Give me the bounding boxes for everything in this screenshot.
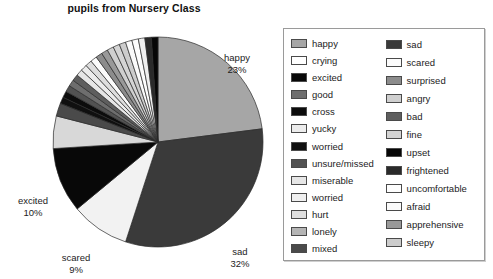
pie-label-scared: scared 9%: [48, 252, 104, 275]
legend-item-fine[interactable]: fine: [386, 126, 480, 142]
legend-swatch-icon: [291, 56, 307, 65]
legend-swatch-icon: [386, 166, 402, 175]
legend-item-excited[interactable]: excited: [291, 70, 380, 85]
pie-chart: happy 23% sad 32% scared 9% excited 10%: [0, 18, 278, 279]
legend-item-label: scared: [407, 57, 436, 68]
legend-item-label: mixed: [312, 243, 337, 254]
legend-item-yucky[interactable]: yucky: [291, 121, 380, 136]
legend-swatch-icon: [291, 176, 307, 185]
legend-swatch-icon: [386, 220, 402, 229]
legend-item-label: happy: [312, 38, 338, 49]
legend-item-worried[interactable]: worried: [291, 190, 380, 205]
pie-label-excited-percent: 10%: [2, 207, 64, 219]
legend-item-upset[interactable]: upset: [386, 144, 480, 160]
pie-label-excited-name: excited: [2, 195, 64, 207]
legend-item-label: worried: [312, 192, 343, 203]
legend-swatch-icon: [386, 130, 402, 139]
legend: happycryingexcitedgoodcrossyuckyworriedu…: [283, 28, 485, 261]
legend-swatch-icon: [386, 40, 402, 49]
legend-item-label: uncomfortable: [407, 183, 467, 194]
pie-label-happy-name: happy: [206, 52, 268, 64]
legend-item-label: sad: [407, 39, 422, 50]
legend-item-crying[interactable]: crying: [291, 53, 380, 68]
legend-item-label: lonely: [312, 226, 337, 237]
legend-columns: happycryingexcitedgoodcrossyuckyworriedu…: [291, 36, 480, 256]
legend-swatch-icon: [291, 244, 307, 253]
pie-label-excited: excited 10%: [2, 195, 64, 218]
legend-swatch-icon: [386, 184, 402, 193]
legend-item-label: miserable: [312, 175, 353, 186]
legend-item-afraid[interactable]: afraid: [386, 198, 480, 214]
pie-label-sad: sad 32%: [212, 246, 268, 269]
legend-item-label: surprised: [407, 75, 446, 86]
legend-swatch-icon: [386, 238, 402, 247]
pie-label-sad-percent: 32%: [212, 258, 268, 270]
legend-swatch-icon: [291, 227, 307, 236]
legend-item-label: yucky: [312, 123, 336, 134]
legend-item-mixed[interactable]: mixed: [291, 241, 380, 256]
legend-swatch-icon: [386, 112, 402, 121]
legend-item-label: fine: [407, 129, 422, 140]
legend-item-label: angry: [407, 93, 431, 104]
legend-item-cross[interactable]: cross: [291, 104, 380, 119]
legend-swatch-icon: [386, 202, 402, 211]
legend-column-right: sadscaredsurprisedangrybadfineupsetfrigh…: [386, 36, 480, 256]
pie-label-scared-name: scared: [48, 252, 104, 264]
pie-label-happy-percent: 23%: [206, 64, 268, 76]
legend-item-hurt[interactable]: hurt: [291, 207, 380, 222]
pie-label-sad-name: sad: [212, 246, 268, 258]
legend-swatch-icon: [386, 58, 402, 67]
legend-item-frightened[interactable]: frightened: [386, 162, 480, 178]
legend-item-label: worried: [312, 141, 343, 152]
legend-swatch-icon: [291, 90, 307, 99]
legend-item-scared[interactable]: scared: [386, 54, 480, 70]
pie-label-scared-percent: 9%: [48, 264, 104, 276]
legend-swatch-icon: [291, 107, 307, 116]
legend-item-apprehensive[interactable]: apprehensive: [386, 216, 480, 232]
legend-item-good[interactable]: good: [291, 87, 380, 102]
legend-swatch-icon: [291, 193, 307, 202]
legend-item-label: good: [312, 89, 333, 100]
legend-item-label: cross: [312, 106, 335, 117]
legend-column-left: happycryingexcitedgoodcrossyuckyworriedu…: [291, 36, 380, 256]
legend-item-label: apprehensive: [407, 219, 464, 230]
pie-label-happy: happy 23%: [206, 52, 268, 75]
legend-item-uncomfortable[interactable]: uncomfortable: [386, 180, 480, 196]
legend-swatch-icon: [386, 76, 402, 85]
legend-swatch-icon: [291, 124, 307, 133]
legend-item-lonely[interactable]: lonely: [291, 224, 380, 239]
legend-swatch-icon: [291, 159, 307, 168]
legend-swatch-icon: [291, 39, 307, 48]
legend-item-label: bad: [407, 111, 423, 122]
legend-item-happy[interactable]: happy: [291, 36, 380, 51]
legend-item-label: excited: [312, 72, 342, 83]
legend-swatch-icon: [386, 94, 402, 103]
legend-item-sleepy[interactable]: sleepy: [386, 234, 480, 250]
legend-swatch-icon: [291, 142, 307, 151]
legend-item-surprised[interactable]: surprised: [386, 72, 480, 88]
legend-item-unsure-missed[interactable]: unsure/missed: [291, 156, 380, 171]
legend-swatch-icon: [386, 148, 402, 157]
legend-item-label: frightened: [407, 165, 449, 176]
legend-item-label: unsure/missed: [312, 158, 374, 169]
page-title: pupils from Nursery Class: [0, 2, 268, 14]
legend-item-label: upset: [407, 147, 430, 158]
legend-item-bad[interactable]: bad: [386, 108, 480, 124]
legend-item-angry[interactable]: angry: [386, 90, 480, 106]
legend-item-miserable[interactable]: miserable: [291, 173, 380, 188]
legend-item-worried[interactable]: worried: [291, 138, 380, 153]
legend-item-label: crying: [312, 55, 337, 66]
legend-item-label: hurt: [312, 209, 328, 220]
legend-item-label: sleepy: [407, 237, 434, 248]
legend-item-sad[interactable]: sad: [386, 36, 480, 52]
legend-swatch-icon: [291, 210, 307, 219]
legend-swatch-icon: [291, 73, 307, 82]
legend-item-label: afraid: [407, 201, 431, 212]
